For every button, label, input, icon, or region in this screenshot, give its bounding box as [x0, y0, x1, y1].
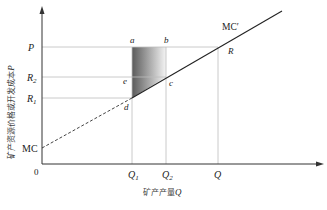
mc-prime-label: MC′	[222, 22, 239, 32]
point-label-b: b	[164, 35, 169, 45]
y-tick-R2: R2	[26, 72, 37, 85]
y-axis-title: 矿产资源价格或开发成本P	[6, 65, 16, 159]
y-tick-R1: R1	[26, 93, 37, 106]
point-label-d: d	[124, 102, 129, 112]
x-tick-Q: Q	[214, 169, 222, 180]
guide-lines	[42, 47, 218, 164]
x-axis-arrow-icon	[316, 162, 324, 167]
x-tick-Q2: Q2	[162, 169, 173, 182]
point-label-e: e	[123, 76, 127, 86]
x-axis-title: 矿产产量Q	[143, 187, 182, 197]
point-label-a: a	[130, 35, 135, 45]
y-axis-arrow-icon	[40, 6, 45, 14]
mc-label: MC	[22, 143, 38, 154]
point-label-c: c	[169, 78, 173, 88]
x-tick-Q1: Q1	[128, 169, 139, 182]
diagram-canvas: P R2 R1 MC 0 Q1 Q2 Q 矿产产量Q 矿产资源价格或开发成本P …	[0, 0, 327, 210]
mc-curve-dashed	[42, 98, 132, 148]
y-tick-P: P	[27, 42, 34, 53]
point-label-R: R	[227, 46, 234, 56]
origin-label: 0	[34, 167, 39, 177]
shaded-region-abcd	[132, 47, 166, 98]
